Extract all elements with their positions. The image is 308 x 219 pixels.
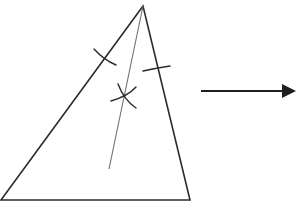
background — [0, 0, 308, 219]
geometry-diagram — [0, 0, 308, 219]
